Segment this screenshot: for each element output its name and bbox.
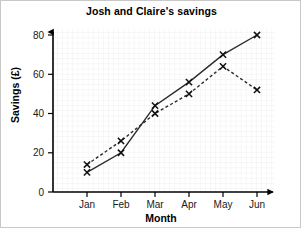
x-tick-label: May xyxy=(214,199,233,210)
x-tick-label: Jan xyxy=(79,199,95,210)
y-tick-label: 80 xyxy=(33,30,45,41)
x-tick-label: Jun xyxy=(249,199,265,210)
x-tick-label: Apr xyxy=(181,199,197,210)
y-tick-labels: 0 20 40 60 80 xyxy=(33,30,45,198)
x-tick-label: Feb xyxy=(112,199,130,210)
y-tick-label: 0 xyxy=(38,187,44,198)
x-tick-label: Mar xyxy=(146,199,164,210)
x-tick-labels: Jan Feb Mar Apr May Jun xyxy=(79,199,265,210)
grid-background xyxy=(53,29,275,192)
y-tick-label: 60 xyxy=(33,69,45,80)
y-tick-label: 40 xyxy=(33,108,45,119)
chart-screenshot: Josh and Claire's savings Savings (£) Mo… xyxy=(0,0,301,228)
y-tick-label: 20 xyxy=(33,147,45,158)
plot-area: 0 20 40 60 80 Jan Feb Mar Apr May Jun xyxy=(1,1,301,228)
